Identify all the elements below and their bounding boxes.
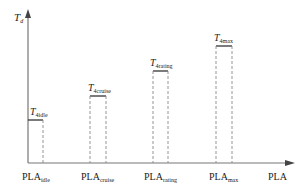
x-axis-label: PLA xyxy=(268,171,288,182)
y-axis-label: Td xyxy=(14,11,24,24)
level-idle-t-label: T4idle xyxy=(30,106,48,118)
diagram-svg: Td T4idle PLAidle T4cruise PLAcruise xyxy=(0,0,303,189)
pla-temperature-diagram: Td T4idle PLAidle T4cruise PLAcruise xyxy=(0,0,303,189)
x-axis-arrow-icon xyxy=(285,160,295,166)
level-idle: T4idle PLAidle xyxy=(22,106,50,183)
level-cruise: T4cruise PLAcruise xyxy=(81,82,115,183)
level-rating-t-label: T4rating xyxy=(150,57,173,69)
y-axis-arrow-icon xyxy=(25,9,31,18)
level-idle-pla-label: PLAidle xyxy=(22,171,50,183)
level-max-pla-label: PLAmax xyxy=(209,171,238,183)
level-cruise-pla-label: PLAcruise xyxy=(81,171,115,183)
level-cruise-t-label: T4cruise xyxy=(88,82,111,94)
level-rating-pla-label: PLArating xyxy=(144,171,177,183)
level-max: T4max PLAmax xyxy=(209,32,238,183)
level-rating: T4rating PLArating xyxy=(144,57,177,183)
level-max-t-label: T4max xyxy=(214,32,233,44)
